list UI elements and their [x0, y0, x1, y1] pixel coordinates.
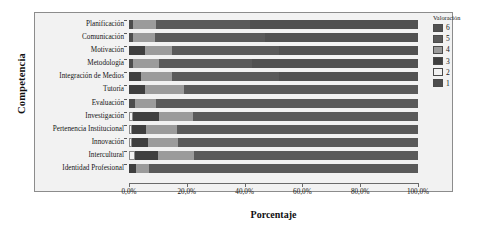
table-row — [129, 125, 418, 134]
bar-segment-4 — [136, 164, 149, 173]
bar-segment-5 — [156, 99, 418, 108]
bar-segment-3 — [129, 164, 136, 173]
x-axis-tick-mark — [302, 183, 303, 187]
y-axis-category-label: Evaluación — [20, 99, 127, 108]
legend-title: Valoración — [433, 14, 483, 21]
bar-segment-4 — [133, 20, 156, 29]
bar-segment-4 — [145, 46, 172, 55]
table-row — [129, 20, 418, 29]
y-axis-tick-mark — [124, 33, 127, 34]
legend-swatch-5 — [433, 35, 443, 43]
legend-item-label: 6 — [446, 23, 450, 32]
bar-segment-5 — [194, 151, 418, 160]
legend-item[interactable]: 1 — [433, 79, 483, 88]
y-axis-tick-mark — [124, 151, 127, 152]
legend-swatch-1 — [433, 79, 443, 87]
bar-segment-5 — [184, 85, 418, 94]
y-axis-category-label: Planificación — [20, 20, 127, 29]
x-axis-tick-label: 40,0% — [235, 188, 254, 196]
table-row — [129, 85, 418, 94]
table-row — [129, 164, 418, 173]
table-row — [129, 33, 418, 42]
bar-segment-5 — [177, 125, 418, 134]
bar-segment-3 — [132, 138, 148, 147]
bar-segment-5 — [149, 164, 418, 173]
table-row — [129, 151, 418, 160]
bar-segment-4 — [148, 138, 178, 147]
bar-segment-5 — [156, 20, 250, 29]
bar-segment-4 — [159, 112, 192, 121]
legend-item[interactable]: 2 — [433, 68, 483, 77]
y-axis-tick-mark — [124, 99, 127, 100]
y-axis-tick-mark — [124, 72, 127, 73]
bar-segment-3 — [133, 112, 159, 121]
stacked-bar-chart-figure: Competencia PlanificaciónComunicaciónMot… — [0, 0, 485, 236]
x-axis-tick-label: 80,0% — [351, 188, 370, 196]
legend-item-label: 2 — [446, 68, 450, 77]
y-axis-category-label: Tutoría — [20, 85, 127, 94]
legend: Valoración 654321 — [433, 14, 483, 90]
bar-segment-6 — [279, 72, 418, 81]
x-axis-tick-label: 100,0% — [407, 188, 429, 196]
legend-item-label: 3 — [446, 57, 450, 66]
y-axis-tick-mark — [124, 20, 127, 21]
bar-segment-5 — [178, 138, 418, 147]
table-row — [129, 46, 418, 55]
table-row — [129, 99, 418, 108]
legend-item[interactable]: 3 — [433, 57, 483, 66]
bar-segment-3 — [129, 85, 145, 94]
bar-segment-6 — [252, 59, 418, 68]
y-axis-tick-mark — [124, 112, 127, 113]
bar-segment-4 — [133, 33, 155, 42]
bar-segment-3 — [129, 46, 145, 55]
legend-item-label: 5 — [446, 34, 450, 43]
legend-items: 654321 — [433, 23, 483, 88]
bar-segment-4 — [158, 151, 194, 160]
table-row — [129, 59, 418, 68]
bar-segment-5 — [172, 46, 279, 55]
legend-swatch-3 — [433, 57, 443, 65]
bar-segment-6 — [265, 33, 418, 42]
y-axis-tick-mark — [124, 59, 127, 60]
bar-segment-4 — [135, 99, 157, 108]
y-axis-tick-mark — [124, 138, 127, 139]
y-axis-tick-labels: PlanificaciónComunicaciónMotivaciónMetod… — [20, 20, 127, 183]
x-axis-tick-label: 60,0% — [293, 188, 312, 196]
bar-segment-3 — [129, 72, 141, 81]
y-axis-category-label: Intercultural — [20, 151, 127, 160]
x-axis-tick-mark — [418, 183, 419, 187]
x-axis-tick-mark — [129, 183, 130, 187]
y-axis-category-label: Innovación — [20, 138, 127, 147]
legend-item-label: 1 — [446, 79, 450, 88]
y-axis-category-label: Motivación — [20, 46, 127, 55]
y-axis-tick-mark — [124, 164, 127, 165]
y-axis-category-label: Identidad Profesional — [20, 164, 127, 173]
x-axis-tick-label: 0,0% — [122, 188, 137, 196]
table-row — [129, 138, 418, 147]
x-axis-tick-mark — [360, 183, 361, 187]
bar-segment-4 — [146, 125, 176, 134]
bar-segment-4 — [133, 59, 159, 68]
x-axis-title: Porcentaje — [129, 209, 418, 220]
bar-segment-4 — [141, 72, 173, 81]
bar-segment-6 — [279, 46, 418, 55]
table-row — [129, 72, 418, 81]
y-axis-category-label: Investigación — [20, 112, 127, 121]
x-axis-tick-mark — [245, 183, 246, 187]
y-axis-tick-mark — [124, 85, 127, 86]
legend-item[interactable]: 5 — [433, 34, 483, 43]
table-row — [129, 112, 418, 121]
legend-swatch-6 — [433, 24, 443, 32]
legend-swatch-2 — [433, 68, 443, 76]
bar-segment-5 — [172, 72, 279, 81]
legend-swatch-4 — [433, 46, 443, 54]
y-axis-category-label: Metodología — [20, 59, 127, 68]
legend-item[interactable]: 6 — [433, 23, 483, 32]
y-axis-tick-mark — [124, 46, 127, 47]
bar-segment-5 — [155, 33, 265, 42]
y-axis-category-label: Pertenencia Institucional — [20, 125, 127, 134]
bar-segment-6 — [250, 20, 418, 29]
legend-item[interactable]: 4 — [433, 45, 483, 54]
bar-segment-5 — [193, 112, 418, 121]
legend-item-label: 4 — [446, 45, 450, 54]
